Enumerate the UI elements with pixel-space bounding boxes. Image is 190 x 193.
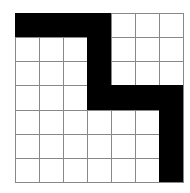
empty-cell [63,158,87,182]
empty-cell [159,61,183,85]
empty-cell [15,85,39,109]
empty-cell [39,85,63,109]
empty-cell [111,134,135,158]
filled-cell [135,85,159,109]
empty-cell [111,158,135,182]
filled-cell [159,134,183,158]
empty-cell [63,61,87,85]
empty-cell [135,13,159,37]
filled-cell [63,13,87,37]
empty-cell [111,110,135,134]
empty-cell [111,13,135,37]
empty-cell [111,37,135,61]
filled-cell [87,61,111,85]
empty-cell [111,61,135,85]
filled-cell [15,13,39,37]
filled-cell [159,85,183,109]
filled-cell [159,158,183,182]
empty-cell [15,158,39,182]
empty-cell [135,37,159,61]
empty-cell [63,37,87,61]
empty-cell [87,110,111,134]
empty-cell [63,85,87,109]
empty-cell [159,37,183,61]
empty-cell [63,110,87,134]
empty-cell [159,13,183,37]
empty-cell [135,158,159,182]
empty-cell [87,158,111,182]
filled-cell [159,110,183,134]
grid-board [15,13,184,183]
empty-cell [39,158,63,182]
empty-cell [15,61,39,85]
filled-cell [39,13,63,37]
empty-cell [87,134,111,158]
empty-cell [135,110,159,134]
filled-cell [87,37,111,61]
empty-cell [15,134,39,158]
empty-cell [39,37,63,61]
filled-cell [111,85,135,109]
empty-cell [39,61,63,85]
empty-cell [15,110,39,134]
empty-cell [15,37,39,61]
empty-cell [39,110,63,134]
empty-cell [39,134,63,158]
empty-cell [135,61,159,85]
empty-cell [135,134,159,158]
filled-cell [87,13,111,37]
empty-cell [63,134,87,158]
filled-cell [87,85,111,109]
